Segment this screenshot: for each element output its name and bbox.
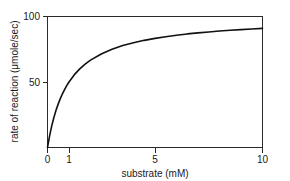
x-axis-title: substrate (mM)	[121, 168, 188, 179]
x-tick-label-0: 0	[45, 154, 51, 165]
x-tick-label-5: 5	[152, 154, 158, 165]
michaelis-menten-chart: 100 50 0 1 5 10 substrate (mM) rate of r…	[0, 0, 290, 181]
enzyme-kinetics-figure: 100 50 0 1 5 10 substrate (mM) rate of r…	[0, 0, 290, 181]
y-tick-label-100: 100	[23, 11, 40, 22]
chart-background	[0, 0, 290, 181]
x-tick-label-10: 10	[257, 154, 269, 165]
y-tick-label-50: 50	[29, 77, 41, 88]
x-tick-label-1: 1	[66, 154, 72, 165]
y-axis-title: rate of reaction (μmole/sec)	[9, 21, 20, 143]
